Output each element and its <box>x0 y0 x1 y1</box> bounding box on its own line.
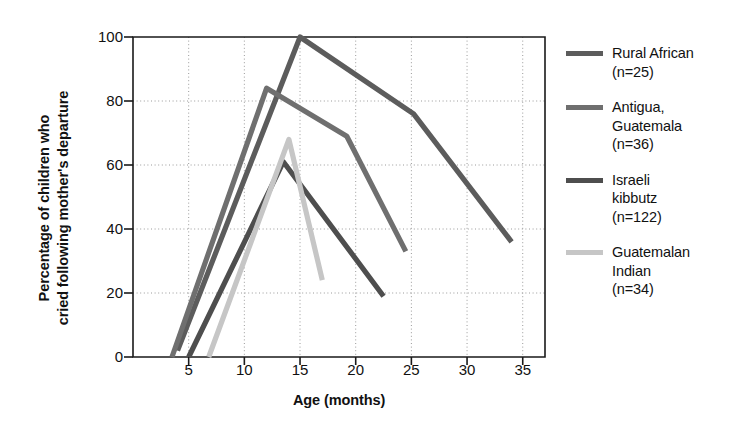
data-series <box>172 37 512 357</box>
legend-label: Israeli kibbutz (n=122) <box>612 171 662 227</box>
legend-label: Antigua, Guatemala (n=36) <box>612 98 682 154</box>
chart-figure: Percentage of children who cried followi… <box>0 0 753 427</box>
legend-entry[interactable]: Antigua, Guatemala (n=36) <box>566 98 751 154</box>
legend-color-swatch <box>566 250 603 255</box>
legend-label: Guatemalan Indian (n=34) <box>612 243 690 299</box>
legend-label: Rural African (n=25) <box>612 44 694 81</box>
legend-color-swatch <box>566 51 603 56</box>
legend-entry[interactable]: Rural African (n=25) <box>566 44 751 81</box>
legend-entry[interactable]: Israeli kibbutz (n=122) <box>566 171 751 227</box>
legend-entry[interactable]: Guatemalan Indian (n=34) <box>566 243 751 299</box>
legend-color-swatch <box>566 178 603 183</box>
legend-color-swatch <box>566 105 603 110</box>
chart-legend: Rural African (n=25)Antigua, Guatemala (… <box>566 44 751 316</box>
series-line-3 <box>209 139 323 357</box>
